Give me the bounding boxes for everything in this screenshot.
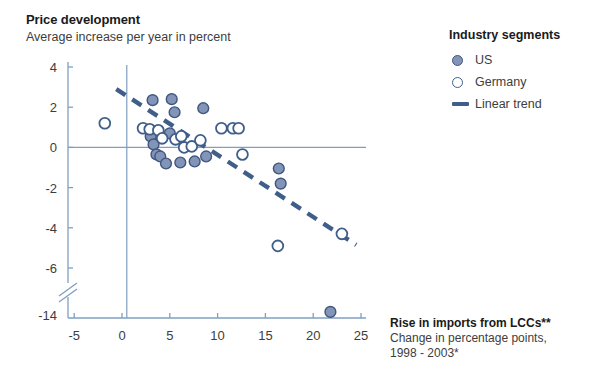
y-tick-label: 0 xyxy=(50,140,57,155)
x-tick-label: 0 xyxy=(118,328,125,343)
y-tick-label: 4 xyxy=(50,60,57,75)
data-point-us xyxy=(166,94,177,105)
x-tick-label: 5 xyxy=(166,328,173,343)
linear-trend-line xyxy=(116,89,356,245)
data-point-us xyxy=(161,158,172,169)
trend-line xyxy=(116,89,356,245)
x-tick-label: 20 xyxy=(306,328,320,343)
y-tick-label: -14 xyxy=(38,308,57,323)
data-point-germany xyxy=(99,118,110,129)
data-point-us xyxy=(325,306,336,317)
x-axis-label-line2: Change in percentage points, xyxy=(390,331,590,346)
x-tick-label: 25 xyxy=(354,328,368,343)
y-tick-label: -6 xyxy=(45,261,57,276)
data-point-us xyxy=(169,107,180,118)
x-axis-label-main: Rise in imports from LCCs** xyxy=(390,316,590,331)
chart-root: Price development Average increase per y… xyxy=(0,0,594,385)
data-point-germany xyxy=(336,228,347,239)
y-tick-label: -2 xyxy=(45,181,57,196)
data-point-us xyxy=(198,103,209,114)
data-point-germany xyxy=(237,149,248,160)
data-point-germany xyxy=(216,123,227,134)
data-point-us xyxy=(175,157,186,168)
data-point-us xyxy=(147,95,158,106)
data-point-germany xyxy=(272,240,283,251)
x-tick-label: -5 xyxy=(68,328,80,343)
x-axis-label-line3: 1998 - 2003* xyxy=(390,346,590,361)
y-tick-label: -4 xyxy=(45,221,57,236)
data-point-germany xyxy=(195,135,206,146)
data-points-layer xyxy=(99,94,347,318)
data-point-germany xyxy=(157,133,168,144)
data-point-us xyxy=(275,178,286,189)
x-axis-label: Rise in imports from LCCs** Change in pe… xyxy=(390,316,590,361)
data-point-us xyxy=(201,151,212,162)
data-point-germany xyxy=(176,131,187,142)
data-point-us xyxy=(189,156,200,167)
data-point-germany xyxy=(233,123,244,134)
axes-layer xyxy=(59,62,366,318)
y-tick-label: 2 xyxy=(50,100,57,115)
x-tick-label: 15 xyxy=(258,328,272,343)
data-point-us xyxy=(273,163,284,174)
x-tick-label: 10 xyxy=(210,328,224,343)
